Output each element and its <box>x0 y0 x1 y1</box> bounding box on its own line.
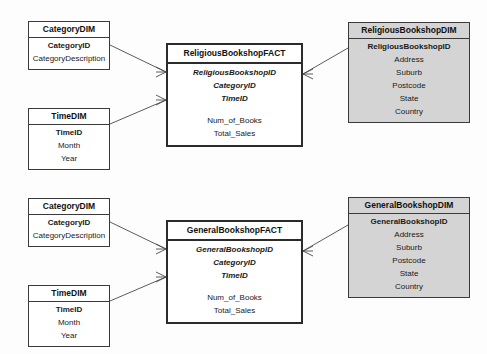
link-religious-fact-to-bookshop-dim <box>303 48 348 74</box>
attribute-row: CategoryID <box>170 257 299 270</box>
attribute-row: Suburb <box>351 67 467 80</box>
entity-attributes: CategoryID CategoryDescription <box>29 38 109 69</box>
entity-title: CategoryDIM <box>29 22 109 38</box>
entity-title: GeneralBookshopFACT <box>168 222 301 241</box>
attribute-row: ReligiousBookshopID <box>170 67 299 80</box>
crowsfoot-religious-fact-bookshop <box>303 69 313 79</box>
erd-canvas: CategoryDIM CategoryID CategoryDescripti… <box>0 0 487 354</box>
attribute-row: CategoryDescription <box>31 230 107 243</box>
entity-category-dim-religious[interactable]: CategoryDIM CategoryID CategoryDescripti… <box>28 21 110 70</box>
entity-category-dim-general[interactable]: CategoryDIM CategoryID CategoryDescripti… <box>28 198 110 247</box>
entity-general-bookshop-dim[interactable]: GeneralBookshopDIM GeneralBookshopID Add… <box>348 197 470 298</box>
attribute-row: Year <box>31 330 107 343</box>
entity-attributes: ReligiousBookshopID CategoryID TimeID Nu… <box>168 64 301 145</box>
link-general-fact-to-bookshop-dim <box>303 225 348 251</box>
attribute-row: Postcode <box>351 80 467 93</box>
entity-attributes: GeneralBookshopID Address Suburb Postcod… <box>349 214 469 297</box>
attribute-row: CategoryID <box>31 40 107 53</box>
attribute-separator <box>170 106 299 115</box>
attribute-row: Month <box>31 317 107 330</box>
crowsfoot-general-fact-bookshop <box>303 246 313 256</box>
entity-attributes: GeneralBookshopID CategoryID TimeID Num_… <box>168 241 301 322</box>
attribute-row: TimeID <box>31 304 107 317</box>
attribute-row: TimeID <box>170 93 299 106</box>
entity-attributes: TimeID Month Year <box>29 302 109 346</box>
entity-religious-bookshop-dim[interactable]: ReligiousBookshopDIM ReligiousBookshopID… <box>348 22 470 123</box>
attribute-row: TimeID <box>31 127 107 140</box>
attribute-row: Country <box>351 281 467 294</box>
entity-title: ReligiousBookshopFACT <box>168 45 301 64</box>
entity-time-dim-general[interactable]: TimeDIM TimeID Month Year <box>28 285 110 347</box>
link-time-to-general-fact <box>110 277 166 301</box>
link-time-to-religious-fact <box>110 100 166 124</box>
crowsfoot-religious-fact-category <box>156 67 166 77</box>
crowsfoot-religious-fact-time <box>156 95 166 105</box>
link-category-to-religious-fact <box>110 45 166 72</box>
attribute-row: CategoryID <box>170 80 299 93</box>
measure-row: Num_of_Books <box>170 292 299 305</box>
attribute-row: Postcode <box>351 255 467 268</box>
crowsfoot-general-fact-time <box>156 272 166 282</box>
entity-general-bookshop-fact[interactable]: GeneralBookshopFACT GeneralBookshopID Ca… <box>166 220 303 324</box>
measure-row: Total_Sales <box>170 305 299 318</box>
attribute-row: Suburb <box>351 242 467 255</box>
attribute-row: Address <box>351 54 467 67</box>
attribute-row: Address <box>351 229 467 242</box>
attribute-row: CategoryID <box>31 217 107 230</box>
entity-title: TimeDIM <box>29 286 109 302</box>
entity-attributes: TimeID Month Year <box>29 125 109 169</box>
attribute-row: Month <box>31 140 107 153</box>
entity-title: GeneralBookshopDIM <box>349 198 469 214</box>
entity-title: CategoryDIM <box>29 199 109 215</box>
entity-time-dim-religious[interactable]: TimeDIM TimeID Month Year <box>28 108 110 170</box>
attribute-separator <box>170 283 299 292</box>
entity-title: TimeDIM <box>29 109 109 125</box>
entity-religious-bookshop-fact[interactable]: ReligiousBookshopFACT ReligiousBookshopI… <box>166 43 303 147</box>
attribute-row: Country <box>351 106 467 119</box>
measure-row: Total_Sales <box>170 128 299 141</box>
attribute-row: ReligiousBookshopID <box>351 41 467 54</box>
attribute-row: TimeID <box>170 270 299 283</box>
entity-attributes: ReligiousBookshopID Address Suburb Postc… <box>349 39 469 122</box>
entity-title: ReligiousBookshopDIM <box>349 23 469 39</box>
entity-attributes: CategoryID CategoryDescription <box>29 215 109 246</box>
measure-row: Num_of_Books <box>170 115 299 128</box>
attribute-row: Year <box>31 153 107 166</box>
crowsfoot-general-fact-category <box>156 244 166 254</box>
attribute-row: CategoryDescription <box>31 53 107 66</box>
attribute-row: GeneralBookshopID <box>351 216 467 229</box>
attribute-row: State <box>351 268 467 281</box>
attribute-row: GeneralBookshopID <box>170 244 299 257</box>
link-category-to-general-fact <box>110 222 166 249</box>
attribute-row: State <box>351 93 467 106</box>
